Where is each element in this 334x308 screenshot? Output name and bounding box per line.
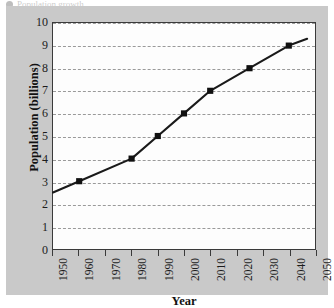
x-tick-label: 2020 <box>243 258 255 298</box>
y-tick-label: 7 <box>8 84 48 96</box>
x-tick-label: 1950 <box>58 258 70 298</box>
x-tick-mark <box>210 250 211 256</box>
y-tick-label: 1 <box>8 221 48 233</box>
y-axis-tick-labels: 012345678910 <box>6 22 48 250</box>
series-markers <box>76 43 292 185</box>
y-tick-label: 3 <box>8 176 48 188</box>
y-tick-label: 5 <box>8 130 48 142</box>
y-tick-label: 4 <box>8 153 48 165</box>
x-tick-label: 2030 <box>269 258 281 298</box>
chart-panel: Population (billions) 012345678910 19501… <box>6 6 328 295</box>
x-tick-mark <box>263 250 264 256</box>
y-tick-label: 2 <box>8 198 48 210</box>
data-point-marker <box>155 133 161 139</box>
data-point-marker <box>76 178 82 184</box>
x-tick-mark <box>131 250 132 256</box>
x-tick-mark <box>290 250 291 256</box>
series-line <box>53 39 307 193</box>
data-point-marker <box>286 43 292 49</box>
data-point-marker <box>181 110 187 116</box>
population-growth-figure: Population growth Population (billions) … <box>0 0 334 308</box>
x-tick-label: 1970 <box>111 258 123 298</box>
y-tick-label: 8 <box>8 62 48 74</box>
x-tick-mark <box>78 250 79 256</box>
x-tick-mark <box>105 250 106 256</box>
data-point-marker <box>207 88 213 94</box>
x-tick-label: 2050 <box>322 258 334 298</box>
x-axis-title: Year <box>52 294 316 308</box>
plot-area <box>52 22 316 250</box>
x-tick-label: 1990 <box>164 258 176 298</box>
population-series <box>53 23 315 249</box>
x-tick-label: 1960 <box>84 258 96 298</box>
y-tick-label: 9 <box>8 39 48 51</box>
y-tick-label: 10 <box>8 16 48 28</box>
x-tick-mark <box>52 250 53 256</box>
x-tick-mark <box>316 250 317 256</box>
x-tick-label: 2040 <box>296 258 308 298</box>
y-tick-label: 6 <box>8 107 48 119</box>
x-tick-label: 2000 <box>190 258 202 298</box>
y-tick-label: 0 <box>8 244 48 256</box>
x-tick-mark <box>237 250 238 256</box>
x-tick-mark <box>184 250 185 256</box>
data-point-marker <box>129 156 135 162</box>
data-point-marker <box>246 65 252 71</box>
x-tick-label: 1980 <box>137 258 149 298</box>
x-tick-mark <box>158 250 159 256</box>
x-tick-label: 2010 <box>216 258 228 298</box>
